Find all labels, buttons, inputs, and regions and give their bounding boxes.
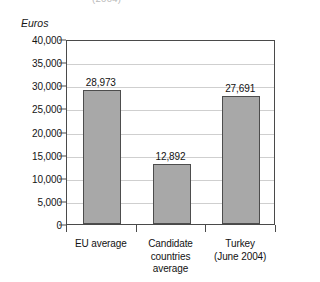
plot-area	[66, 40, 275, 225]
bar	[153, 164, 191, 224]
y-axis-tick-mark	[59, 40, 66, 41]
clipped-title-fragment: (2004)	[92, 0, 121, 4]
bar	[83, 90, 121, 224]
x-axis-tick-mark	[136, 225, 137, 232]
y-axis-tick-label: 35,000	[32, 58, 62, 69]
bar-value-label: 27,691	[200, 83, 280, 94]
y-axis-tick-label: 40,000	[32, 35, 62, 46]
y-axis-tick-mark	[59, 63, 66, 64]
bar	[222, 96, 260, 224]
y-axis-tick-mark	[59, 109, 66, 110]
y-axis-unit-label: Euros	[21, 17, 48, 29]
x-axis-tick-mark	[205, 225, 206, 232]
x-axis-tick-mark	[275, 225, 276, 232]
x-axis-category-label: Turkey (June 2004)	[195, 238, 285, 263]
gridline	[67, 64, 274, 65]
y-axis-tick-label: 15,000	[32, 150, 62, 161]
y-axis-tick-label: 30,000	[32, 81, 62, 92]
y-axis-tick-mark	[59, 225, 66, 226]
bar-value-label: 12,892	[131, 151, 211, 162]
y-axis-tick-label: 10,000	[32, 173, 62, 184]
y-axis-tick-mark	[59, 178, 66, 179]
y-axis-tick-mark	[59, 155, 66, 156]
y-axis-tick-mark	[59, 201, 66, 202]
x-axis-tick-mark	[66, 225, 67, 232]
y-axis-tick-label: 25,000	[32, 104, 62, 115]
y-axis-tick-label: 20,000	[32, 127, 62, 138]
y-axis-tick-mark	[59, 132, 66, 133]
bar-value-label: 28,973	[61, 77, 141, 88]
